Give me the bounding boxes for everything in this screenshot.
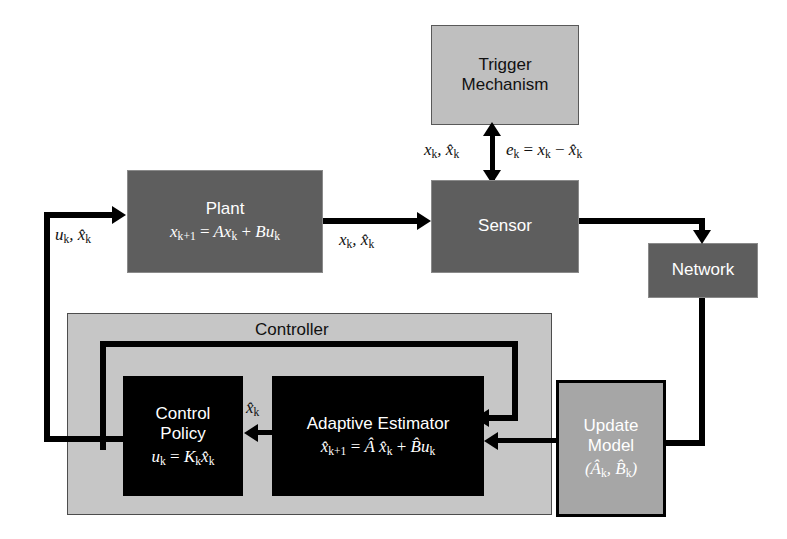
block-sensor: Sensor: [431, 180, 579, 273]
feedback-line-h-bottom: [44, 436, 123, 442]
adaptive-estimator-equation: x̂k+1 = Â x̂k + B̂uk: [321, 437, 435, 459]
controller-loop-line-top: [100, 341, 518, 347]
feedback-line-h-top: [44, 212, 114, 218]
sensor-trigger-arrowhead-up: [483, 122, 501, 136]
edge-label-plant-to-sensor: xk, x̂k: [339, 230, 374, 251]
controller-loop-line-left: [100, 341, 106, 450]
control-policy-label-line2: Policy: [160, 424, 205, 444]
plant-label: Plant: [206, 199, 245, 219]
edge-label-sensor-to-trigger: xk, x̂k: [424, 140, 459, 161]
estimator-to-policy-line: [258, 430, 274, 435]
edge-label-plant-input: uk, x̂k: [55, 225, 91, 246]
block-diagram-canvas: Trigger Mechanism xk, x̂k ek = xk − x̂k …: [0, 0, 787, 539]
control-policy-label-line1: Control: [156, 404, 211, 424]
sensor-label: Sensor: [478, 216, 532, 236]
trigger-mechanism-label-line1: Trigger: [478, 55, 531, 75]
update-to-estimator-line: [498, 438, 556, 443]
network-to-update-line-h: [664, 440, 705, 446]
network-label: Network: [672, 260, 734, 280]
edge-label-estimator-to-policy: x̂k: [246, 398, 259, 419]
plant-to-sensor-line: [323, 218, 418, 224]
controller-loop-line-right: [512, 341, 518, 421]
block-update-model: Update Model (Âk, B̂k): [556, 380, 666, 517]
update-model-label-line1: Update: [584, 416, 639, 436]
sensor-to-network-arrowhead: [693, 230, 711, 244]
estimator-to-policy-arrowhead: [244, 424, 258, 442]
block-control-policy: Control Policy uk = Kkx̂k: [123, 376, 243, 496]
feedback-to-plant-arrowhead: [112, 206, 126, 224]
controller-loop-line-enter: [488, 415, 518, 421]
control-policy-equation: uk = Kkx̂k: [152, 447, 215, 469]
adaptive-estimator-label: Adaptive Estimator: [307, 414, 450, 434]
block-plant: Plant xk+1 = Axk + Buk: [127, 170, 323, 273]
edge-label-trigger-error: ek = xk − x̂k: [506, 140, 582, 161]
plant-to-sensor-arrowhead: [417, 212, 431, 230]
update-model-equation: (Âk, B̂k): [585, 459, 637, 481]
trigger-mechanism-label-line2: Mechanism: [462, 75, 549, 95]
block-trigger-mechanism: Trigger Mechanism: [431, 25, 579, 125]
update-model-label-line2: Model: [588, 436, 634, 456]
feedback-line-v: [44, 218, 50, 442]
plant-equation: xk+1 = Axk + Buk: [170, 222, 280, 244]
network-to-update-line-v: [699, 298, 705, 446]
block-network: Network: [648, 243, 758, 298]
block-adaptive-estimator: Adaptive Estimator x̂k+1 = Â x̂k + B̂uk: [272, 376, 484, 496]
controller-label: Controller: [255, 320, 329, 340]
update-to-estimator-arrowhead: [484, 432, 498, 450]
sensor-to-network-line-h: [579, 218, 705, 224]
